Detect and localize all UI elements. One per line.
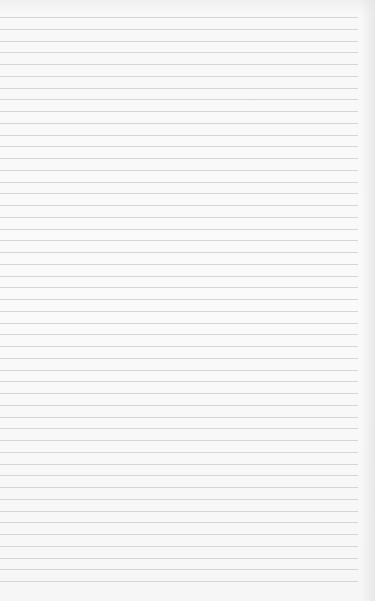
ruled-line: [0, 569, 358, 570]
ruled-line: [0, 452, 358, 453]
ruled-line: [0, 252, 358, 253]
ruled-line: [0, 464, 358, 465]
ruled-line: [0, 558, 358, 559]
ruled-line: [0, 417, 358, 418]
ruled-line: [0, 323, 358, 324]
ruled-line: [0, 534, 358, 535]
ruled-line: [0, 123, 358, 124]
ruled-line: [0, 346, 358, 347]
ruled-line: [0, 475, 358, 476]
ruled-line: [0, 370, 358, 371]
lined-paper: [0, 0, 375, 601]
ruled-line: [0, 334, 358, 335]
ruled-line: [0, 511, 358, 512]
ruled-line: [0, 522, 358, 523]
ruled-line: [0, 193, 358, 194]
ruled-line: [0, 546, 358, 547]
ruled-line: [0, 264, 358, 265]
ruled-line: [0, 41, 358, 42]
ruled-line: [0, 111, 358, 112]
ruled-line: [0, 135, 358, 136]
ruled-line: [0, 229, 358, 230]
ruled-line: [0, 499, 358, 500]
ruled-line: [0, 146, 358, 147]
ruled-line: [0, 64, 358, 65]
ruled-line: [0, 240, 358, 241]
ruled-line: [0, 405, 358, 406]
ruled-line: [0, 205, 358, 206]
ruled-line: [0, 287, 358, 288]
ruled-line: [0, 17, 358, 18]
ruled-line: [0, 52, 358, 53]
ruled-line: [0, 381, 358, 382]
ruled-line: [0, 311, 358, 312]
ruled-line: [0, 99, 358, 100]
ruled-line: [0, 217, 358, 218]
ruled-line: [0, 170, 358, 171]
ruled-line: [0, 29, 358, 30]
ruled-line: [0, 581, 358, 582]
ruled-line: [0, 358, 358, 359]
ruled-line: [0, 428, 358, 429]
ruled-line: [0, 487, 358, 488]
ruled-line: [0, 76, 358, 77]
ruled-line: [0, 158, 358, 159]
ruled-line: [0, 440, 358, 441]
ruled-line: [0, 276, 358, 277]
ruled-line: [0, 88, 358, 89]
ruled-line: [0, 299, 358, 300]
ruled-line: [0, 182, 358, 183]
ruled-line: [0, 393, 358, 394]
